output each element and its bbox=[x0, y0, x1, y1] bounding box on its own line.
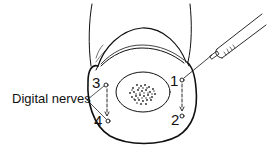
point-1-marker bbox=[180, 78, 184, 82]
point-4-label: 4 bbox=[94, 113, 102, 128]
digit-right-side bbox=[188, 4, 191, 62]
digit-left-side bbox=[89, 4, 92, 66]
point-3-label: 3 bbox=[92, 75, 100, 90]
bone-cross-section bbox=[116, 72, 170, 112]
point-3-marker bbox=[104, 83, 108, 87]
digital-nerves-label: Digital nerves bbox=[12, 92, 91, 105]
nail-outline bbox=[98, 28, 186, 66]
point-2-label: 2 bbox=[171, 112, 179, 127]
point-2-marker bbox=[180, 114, 184, 118]
point-1-label: 1 bbox=[170, 73, 178, 88]
nail-inner bbox=[101, 48, 184, 66]
bone-stipple bbox=[129, 84, 156, 105]
cross-section-outline bbox=[88, 62, 197, 144]
digital-nerve-block-diagram bbox=[0, 0, 272, 155]
syringe-icon bbox=[184, 14, 266, 78]
point-4-marker bbox=[106, 119, 110, 123]
